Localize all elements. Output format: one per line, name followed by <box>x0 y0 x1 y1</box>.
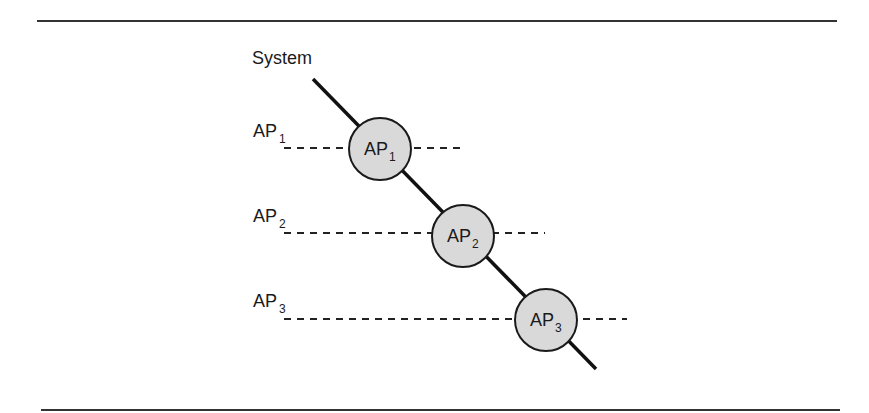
label-subscript: 1 <box>279 132 286 146</box>
system-label: System <box>252 48 312 68</box>
access-point-rows: AP1AP1AP2AP2AP3AP3 <box>253 118 627 351</box>
node-label-subscript: 1 <box>389 150 396 164</box>
access-point-label: AP3 <box>253 291 286 316</box>
label-main: AP <box>253 291 277 311</box>
node-label-subscript: 2 <box>472 237 479 251</box>
node-label-subscript: 3 <box>555 321 562 335</box>
label-main: AP <box>253 121 277 141</box>
access-point-row-1: AP1AP1 <box>253 118 463 180</box>
access-point-diagram: System AP1AP1AP2AP2AP3AP3 <box>0 0 869 413</box>
label-main: AP <box>253 206 277 226</box>
label-subscript: 3 <box>279 302 286 316</box>
node-label-main: AP <box>364 139 388 159</box>
node-label-main: AP <box>530 310 554 330</box>
access-point-label: AP2 <box>253 206 286 231</box>
node-label-main: AP <box>447 226 471 246</box>
access-point-row-2: AP2AP2 <box>253 205 545 267</box>
access-point-label: AP1 <box>253 121 286 146</box>
label-subscript: 2 <box>279 217 286 231</box>
